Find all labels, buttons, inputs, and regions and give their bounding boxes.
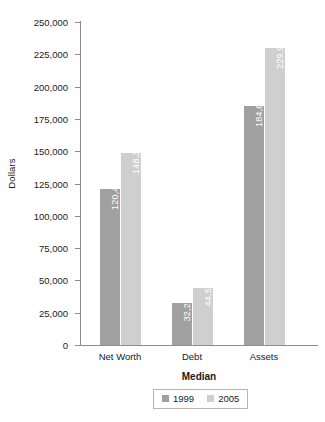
bar-net-worth-2005: 148,350	[121, 153, 141, 345]
plot-area: 025,00050,00075,000100,000125,000150,000…	[80, 22, 318, 345]
legend-label: 2005	[218, 393, 239, 404]
bar-assets-2005: 229,930	[265, 48, 285, 345]
y-axis-tick-label: 175,000	[34, 113, 68, 124]
y-axis-tick-label: 0	[63, 340, 68, 351]
bar-value-label: 120,451	[110, 176, 120, 210]
y-axis-tick: 125,000	[75, 184, 80, 185]
y-axis-tick: 50,000	[75, 280, 80, 281]
chart-legend: 19992005	[153, 389, 248, 409]
y-axis-tick-label: 250,000	[34, 17, 68, 28]
legend-swatch-icon	[207, 395, 214, 402]
legend-item-2005: 2005	[207, 393, 239, 404]
y-axis-tick-label: 225,000	[34, 49, 68, 60]
bar-assets-1999: 184,622	[244, 106, 264, 345]
y-axis-tick-label: 50,000	[39, 275, 68, 286]
bar-value-label: 229,930	[275, 35, 285, 69]
y-axis-tick-label: 150,000	[34, 146, 68, 157]
y-axis-tick: 250,000	[75, 22, 80, 23]
y-axis-tick: 75,000	[75, 248, 80, 249]
bar-net-worth-1999: 120,451	[100, 189, 120, 345]
bar-value-label: 148,350	[131, 140, 141, 174]
x-axis-line	[80, 345, 318, 346]
y-axis-tick: 225,000	[75, 54, 80, 55]
bar-value-label: 44,500	[203, 277, 213, 306]
y-axis-tick: 25,000	[75, 313, 80, 314]
bar-debt-2005: 44,500	[193, 288, 213, 345]
bar-value-label: 32,267	[182, 293, 192, 322]
bar-chart: Dollars 025,00050,00075,000100,000125,00…	[0, 0, 325, 422]
x-axis-title: Median	[80, 371, 318, 382]
x-axis-label-assets: Assets	[219, 351, 309, 362]
y-axis-tick: 175,000	[75, 119, 80, 120]
y-axis-tick-label: 200,000	[34, 81, 68, 92]
legend-label: 1999	[173, 393, 194, 404]
y-axis-tick-label: 100,000	[34, 210, 68, 221]
legend-swatch-icon	[162, 395, 169, 402]
y-axis-title: Dollars	[6, 139, 17, 209]
y-axis-tick: 150,000	[75, 151, 80, 152]
bar-value-label: 184,622	[254, 94, 264, 128]
y-axis-tick-label: 75,000	[39, 243, 68, 254]
y-axis-tick-label: 125,000	[34, 178, 68, 189]
legend-item-1999: 1999	[162, 393, 194, 404]
y-axis-tick: 200,000	[75, 87, 80, 88]
bar-debt-1999: 32,267	[172, 303, 192, 345]
y-axis-tick: 0	[75, 345, 80, 346]
y-axis-tick: 100,000	[75, 216, 80, 217]
y-axis-tick-label: 25,000	[39, 307, 68, 318]
